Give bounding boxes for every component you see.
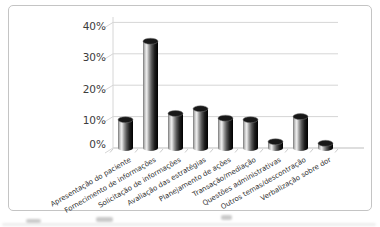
gridline-depth-tick [105, 54, 113, 59]
category-tick [335, 149, 338, 153]
category-tick [235, 149, 238, 153]
category-tick [160, 149, 163, 153]
y-tick-label: 30% [83, 51, 106, 63]
bar [193, 109, 208, 148]
bar-top-cap [218, 115, 233, 121]
scan-smudge [96, 217, 113, 222]
category-tick [185, 149, 188, 153]
bar [218, 118, 233, 148]
y-tick-label: 40% [83, 20, 106, 32]
bar [143, 41, 158, 148]
category-tick [135, 149, 138, 153]
scan-streak [2, 223, 376, 226]
bar-chart: 0%10%20%30%40%Apresentação do pacienteFo… [0, 0, 380, 227]
scan-smudge [221, 215, 232, 220]
bar-top-cap [143, 38, 158, 44]
gridline-depth-tick [105, 85, 113, 90]
gridline-depth-tick [105, 117, 113, 122]
gridline-depth-tick [105, 22, 113, 27]
bar-top-cap [268, 139, 283, 145]
y-tick-label: 20% [83, 83, 106, 95]
bar-top-cap [243, 117, 258, 123]
bar-top-cap [193, 106, 208, 112]
category-tick [260, 149, 263, 153]
bar [168, 113, 183, 148]
bar-top-cap [168, 110, 183, 116]
bar-top-cap [318, 140, 333, 146]
bar [293, 117, 308, 148]
bar-top-cap [293, 114, 308, 120]
category-tick [210, 149, 213, 153]
category-tick [285, 149, 288, 153]
scanned-figure: 0%10%20%30%40%Apresentação do pacienteFo… [0, 0, 380, 227]
category-tick [310, 149, 313, 153]
bar-top-cap [118, 117, 133, 123]
bar [243, 120, 258, 148]
y-tick-label: 0% [89, 138, 106, 150]
bar [118, 120, 133, 148]
y-tick-label: 10% [83, 114, 106, 126]
